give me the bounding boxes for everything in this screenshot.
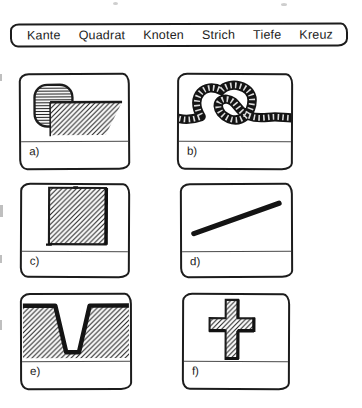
panel-label: a) (29, 145, 39, 157)
word-kreuz[interactable]: Kreuz (299, 28, 333, 42)
scan-artifact (0, 255, 2, 263)
rope-knot-figure (179, 75, 291, 140)
worksheet-page: { "word_bank": { "items": ["Kante", "Qua… (0, 0, 362, 408)
scan-artifact (113, 2, 118, 5)
hatched-cross-figure (184, 295, 288, 360)
diagonal-stroke-figure (182, 185, 291, 250)
panel-divider (182, 251, 291, 252)
deep-groove-figure (22, 295, 130, 360)
panel-label: f) (192, 365, 199, 377)
panel-divider (21, 141, 128, 143)
scan-artifact (0, 320, 2, 330)
panel-label: b) (187, 145, 197, 157)
word-strich[interactable]: Strich (202, 28, 235, 42)
panel-label: d) (190, 255, 200, 267)
panel-label: e) (30, 365, 40, 377)
panel-e[interactable]: e) (20, 293, 132, 390)
word-tiefe[interactable]: Tiefe (253, 28, 281, 42)
hatched-square-figure (22, 185, 128, 250)
rounded-edge-figure (21, 75, 128, 141)
scan-artifact (0, 205, 3, 217)
word-kante[interactable]: Kante (27, 28, 61, 42)
panel-f[interactable]: f) (182, 293, 290, 390)
panel-c[interactable]: c) (20, 183, 130, 278)
word-quadrat[interactable]: Quadrat (79, 28, 126, 42)
panel-a[interactable]: a) (19, 73, 131, 171)
panel-divider (179, 141, 291, 142)
word-bank: Kante Quadrat Knoten Strich Tiefe Kreuz (10, 23, 348, 48)
panel-divider (22, 361, 130, 362)
scan-artifact (0, 74, 2, 81)
panel-label: c) (30, 255, 40, 267)
panel-b[interactable]: b) (177, 73, 293, 170)
scan-artifact (281, 3, 287, 6)
panel-divider (22, 251, 128, 252)
panel-d[interactable]: d) (180, 183, 293, 278)
word-knoten[interactable]: Knoten (143, 28, 184, 42)
panel-divider (184, 361, 288, 362)
